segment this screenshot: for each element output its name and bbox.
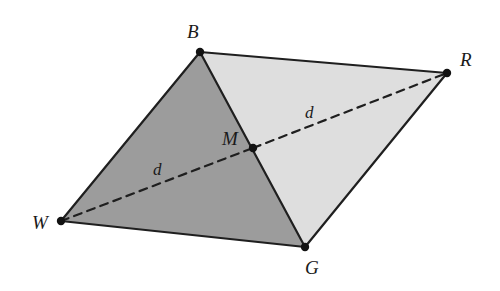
segment-label-d-right: d: [305, 104, 314, 121]
vertex-dot-b: [196, 48, 204, 56]
vertex-label-b: B: [187, 22, 199, 41]
vertex-label-m: M: [222, 129, 238, 148]
vertex-label-g: G: [305, 258, 319, 277]
geometry-figure: B R G W M d d: [0, 0, 500, 291]
vertex-dot-m: [249, 144, 257, 152]
segment-label-d-left: d: [153, 161, 162, 178]
vertex-dot-r: [443, 69, 451, 77]
figure-canvas: [0, 0, 500, 291]
vertex-dot-w: [57, 217, 65, 225]
vertex-label-r: R: [460, 50, 472, 69]
vertex-dot-g: [301, 243, 309, 251]
vertex-label-w: W: [32, 213, 48, 232]
